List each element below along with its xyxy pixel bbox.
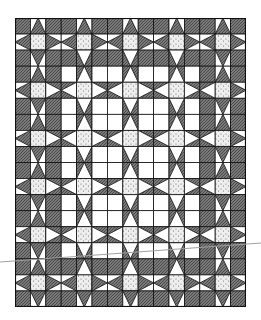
scan-scratch-line bbox=[0, 0, 261, 320]
